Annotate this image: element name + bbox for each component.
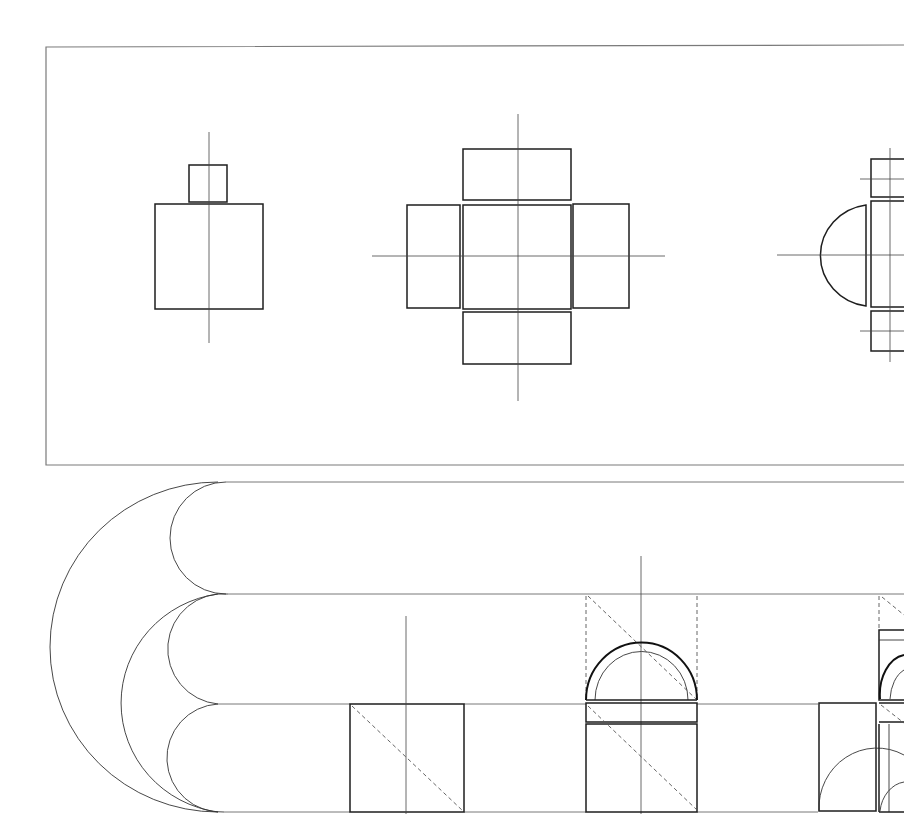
upper-diagonal <box>588 596 697 700</box>
small-vault-1 <box>170 482 226 594</box>
bottom-band <box>50 482 904 814</box>
top-rectangle <box>463 149 571 200</box>
quarter-arc <box>819 748 904 811</box>
diagonal-dashed <box>352 706 463 811</box>
block-body <box>586 724 697 812</box>
inner-arch <box>595 651 688 700</box>
square <box>350 704 464 812</box>
right-cropped-group <box>819 596 904 812</box>
lintel-band <box>586 703 697 722</box>
small-vault-2 <box>168 594 228 704</box>
large-vault <box>50 482 218 812</box>
figure-cross-of-rectangles <box>372 114 665 401</box>
arch-fragment <box>880 655 904 699</box>
bottom-rectangle <box>463 312 571 364</box>
small-vault-3 <box>167 704 224 812</box>
top-panel-frame <box>46 45 904 465</box>
half-circle <box>820 205 866 306</box>
upper-small-rect <box>871 159 904 197</box>
inner-arch-fragment <box>890 670 904 699</box>
square-with-diagonal <box>350 616 464 814</box>
top-panel <box>46 45 904 465</box>
figure-square-with-annex <box>155 132 263 343</box>
medium-vault <box>121 594 218 812</box>
left-rectangle <box>407 205 460 308</box>
small-arc <box>880 782 904 811</box>
diagonal-lower <box>881 705 904 723</box>
figure-half-circle-with-bars <box>777 148 904 362</box>
diagonal-upper <box>882 597 904 615</box>
architectural-drawing <box>0 0 904 836</box>
tall-rectangle <box>819 703 876 811</box>
center-tall-rect <box>871 201 904 307</box>
center-square <box>463 205 571 309</box>
small-square <box>189 165 227 202</box>
arched-block <box>586 556 697 814</box>
